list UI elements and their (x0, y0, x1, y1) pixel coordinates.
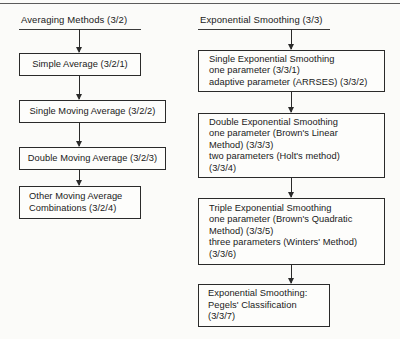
arrow-simple-to-single-moving-average (79, 76, 80, 99)
node-simple-average[interactable]: Simple Average (3/2/1) (19, 53, 141, 76)
arrow-averaging-header-to-simple-average (79, 29, 80, 52)
arrow-double-to-other-moving-average (79, 170, 80, 185)
column-header-exponential-smoothing: Exponential Smoothing (3/3) (200, 14, 323, 26)
top-divider-rule (0, 3, 400, 4)
arrow-double-to-triple-exponential (291, 178, 292, 197)
arrow-single-to-double-moving-average (79, 123, 80, 146)
node-pegels-classification-label: Exponential Smoothing: Pegels' Classific… (199, 288, 329, 322)
figure-canvas: Averaging Methods (3/2) Simple Average (… (0, 0, 400, 339)
node-other-moving-average-combinations[interactable]: Other Moving Average Combinations (3/2/4… (19, 186, 141, 219)
node-other-moving-average-combinations-label: Other Moving Average Combinations (3/2/4… (20, 191, 140, 214)
node-triple-exponential-smoothing[interactable]: Triple Exponential Smoothing one paramet… (198, 198, 385, 265)
column-header-rule-averaging (19, 29, 141, 30)
node-double-moving-average[interactable]: Double Moving Average (3/2/3) (19, 147, 166, 170)
node-simple-average-label: Simple Average (3/2/1) (26, 59, 134, 70)
node-single-moving-average[interactable]: Single Moving Average (3/2/2) (19, 100, 166, 123)
node-double-moving-average-label: Double Moving Average (3/2/3) (22, 153, 163, 164)
node-single-moving-average-label: Single Moving Average (3/2/2) (24, 106, 162, 117)
arrow-exponential-header-to-single (291, 29, 292, 49)
arrow-single-to-double-exponential (291, 92, 292, 112)
node-pegels-classification[interactable]: Exponential Smoothing: Pegels' Classific… (198, 284, 330, 327)
node-single-exponential-smoothing-label: Single Exponential Smoothing one paramet… (199, 54, 384, 88)
node-triple-exponential-smoothing-label: Triple Exponential Smoothing one paramet… (199, 203, 384, 260)
column-header-rule-exponential (198, 29, 330, 30)
column-header-averaging-methods: Averaging Methods (3/2) (21, 14, 127, 26)
arrow-triple-to-pegels-classification (291, 265, 292, 283)
node-double-exponential-smoothing-label: Double Exponential Smoothing one paramet… (199, 117, 384, 174)
node-single-exponential-smoothing[interactable]: Single Exponential Smoothing one paramet… (198, 50, 385, 92)
node-double-exponential-smoothing[interactable]: Double Exponential Smoothing one paramet… (198, 113, 385, 178)
